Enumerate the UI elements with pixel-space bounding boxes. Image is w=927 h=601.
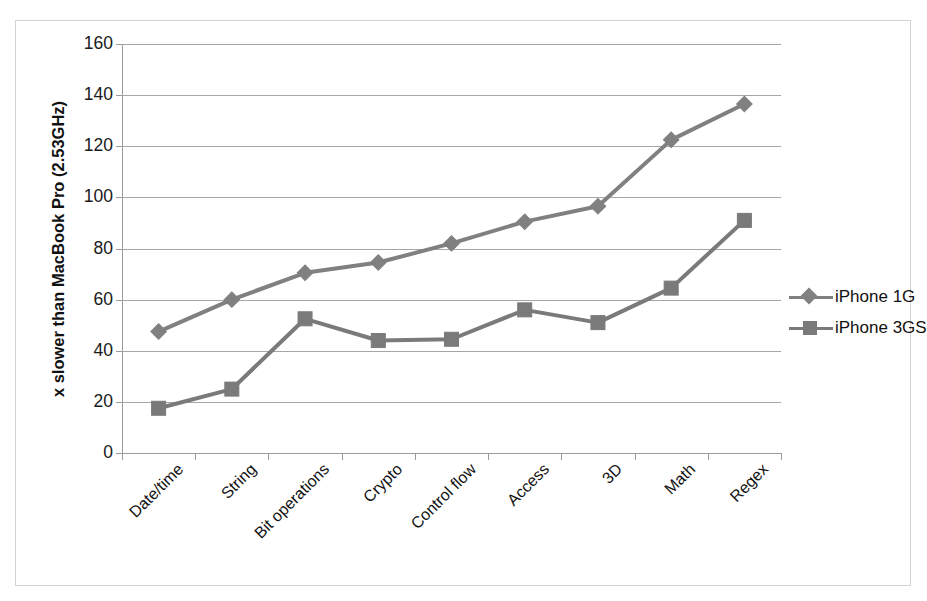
data-point-1-8[interactable] bbox=[737, 96, 753, 112]
x-category-label-4: Control flow bbox=[408, 461, 479, 532]
x-category-label-8: Regex bbox=[728, 461, 772, 505]
y-axis-title: x slower than MacBook Pro (2.53GHz) bbox=[49, 100, 68, 396]
gridline-0 bbox=[122, 453, 781, 454]
data-point-2-1[interactable] bbox=[225, 382, 239, 396]
y-tick-label-120: 120 bbox=[84, 138, 113, 156]
data-point-2-7[interactable] bbox=[664, 281, 678, 295]
x-category-label-2: Bit operations bbox=[252, 461, 332, 541]
x-tick-3 bbox=[342, 453, 343, 460]
data-point-2-8[interactable] bbox=[737, 213, 751, 227]
series-1 bbox=[151, 96, 752, 339]
x-category-label-0: Date/time bbox=[126, 461, 186, 521]
diamond-marker-icon bbox=[789, 287, 833, 307]
data-point-2-4[interactable] bbox=[445, 332, 459, 346]
x-tick-4 bbox=[415, 453, 416, 460]
series-line-1 bbox=[159, 104, 745, 332]
data-point-2-0[interactable] bbox=[152, 401, 166, 415]
series-layer bbox=[122, 44, 781, 453]
x-category-label-6: 3D bbox=[599, 461, 625, 487]
data-point-1-5[interactable] bbox=[517, 214, 533, 230]
plot-area: x slower than MacBook Pro (2.53GHz) 0204… bbox=[122, 44, 781, 453]
x-tick-0 bbox=[122, 453, 123, 460]
data-point-1-3[interactable] bbox=[370, 255, 386, 271]
chart-legend: iPhone 1G iPhone 3GS bbox=[789, 281, 927, 343]
legend-label-series-1: iPhone 1G bbox=[833, 287, 915, 307]
x-tick-8 bbox=[708, 453, 709, 460]
y-tick-label-60: 60 bbox=[94, 291, 113, 309]
x-category-label-7: Math bbox=[662, 461, 698, 497]
data-point-1-4[interactable] bbox=[444, 236, 460, 252]
x-tick-9 bbox=[781, 453, 782, 460]
y-tick-label-140: 140 bbox=[84, 86, 113, 104]
x-tick-7 bbox=[635, 453, 636, 460]
x-tick-2 bbox=[268, 453, 269, 460]
y-tick-label-100: 100 bbox=[84, 189, 113, 207]
square-marker-icon bbox=[789, 318, 833, 338]
legend-item-series-2[interactable]: iPhone 3GS bbox=[789, 312, 927, 343]
y-tick-label-80: 80 bbox=[94, 240, 113, 258]
x-tick-5 bbox=[488, 453, 489, 460]
x-category-label-3: Crypto bbox=[361, 461, 406, 506]
data-point-1-1[interactable] bbox=[224, 292, 240, 308]
x-tick-6 bbox=[561, 453, 562, 460]
data-point-2-6[interactable] bbox=[591, 316, 605, 330]
data-point-1-2[interactable] bbox=[297, 265, 313, 281]
y-tick-label-20: 20 bbox=[94, 393, 113, 411]
y-tick-label-160: 160 bbox=[84, 35, 113, 53]
x-tick-1 bbox=[195, 453, 196, 460]
data-point-2-5[interactable] bbox=[518, 303, 532, 317]
x-category-label-1: String bbox=[218, 461, 259, 502]
chart-frame: x slower than MacBook Pro (2.53GHz) 0204… bbox=[15, 20, 911, 586]
legend-item-series-1[interactable]: iPhone 1G bbox=[789, 281, 927, 312]
data-point-1-0[interactable] bbox=[151, 324, 167, 340]
x-category-label-5: Access bbox=[504, 461, 552, 509]
legend-label-series-2: iPhone 3GS bbox=[833, 318, 927, 338]
y-tick-label-40: 40 bbox=[94, 342, 113, 360]
data-point-2-2[interactable] bbox=[298, 312, 312, 326]
y-tick-label-0: 0 bbox=[103, 444, 113, 462]
data-point-2-3[interactable] bbox=[371, 334, 385, 348]
